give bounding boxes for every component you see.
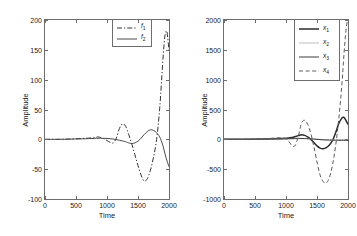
x-tick-label: 1500 [309, 202, 325, 209]
y-tick-mark [224, 139, 227, 140]
x-tick-label: 0 [43, 202, 47, 209]
x-tick-mark [348, 20, 349, 23]
x-tick-label: 0 [222, 202, 226, 209]
y-tick-mark [345, 169, 348, 170]
y-tick-mark [45, 50, 48, 51]
legend-label-x4: x4 [323, 67, 329, 75]
x-tick-mark [169, 196, 170, 199]
y-tick-mark [166, 80, 169, 81]
x-tick-mark [286, 196, 287, 199]
legend-swatch-x2 [298, 39, 320, 47]
x-tick-mark [169, 20, 170, 23]
chart-panel-right: x1x2x3x4 Time Amplitude -1000-5000500100… [179, 0, 357, 236]
y-tick-mark [224, 199, 227, 200]
y-tick-mark [224, 80, 227, 81]
y-tick-label: 150 [30, 46, 42, 53]
x-axis-label-left: Time [99, 211, 115, 220]
series-line-x1 [224, 117, 348, 149]
y-tick-label: 0 [217, 136, 221, 143]
y-tick-label: 200 [30, 17, 42, 24]
y-tick-label: -50 [32, 166, 42, 173]
x-tick-mark [138, 196, 139, 199]
legend-entry-f1[interactable]: f1 [116, 22, 148, 33]
x-tick-mark [107, 20, 108, 23]
y-tick-label: -100 [28, 196, 42, 203]
y-tick-mark [345, 110, 348, 111]
legend-swatch-f2 [116, 35, 138, 43]
x-tick-mark [224, 20, 225, 23]
y-axis-label-left: Amplitude [21, 93, 30, 126]
legend-entry-x2[interactable]: x2 [298, 36, 336, 50]
legend-right[interactable]: x1x2x3x4 [294, 19, 340, 81]
y-tick-mark [166, 169, 169, 170]
y-tick-mark [45, 139, 48, 140]
x-tick-mark [76, 20, 77, 23]
y-tick-mark [345, 50, 348, 51]
x-tick-mark [107, 196, 108, 199]
x-tick-mark [45, 196, 46, 199]
legend-swatch-f1 [116, 24, 138, 32]
y-tick-mark [166, 110, 169, 111]
x-tick-mark [224, 196, 225, 199]
legend-left[interactable]: f1f2 [112, 19, 152, 47]
x-tick-label: 1000 [99, 202, 115, 209]
x-axis-label-right: Time [278, 211, 294, 220]
y-tick-mark [166, 139, 169, 140]
y-tick-mark [345, 139, 348, 140]
y-tick-mark [45, 199, 48, 200]
plot-area-left: f1f2 Time Amplitude -100-500501001502000… [44, 19, 170, 200]
x-tick-mark [286, 20, 287, 23]
y-tick-label: -500 [207, 166, 221, 173]
legend-entry-x3[interactable]: x3 [298, 50, 336, 64]
y-tick-mark [345, 80, 348, 81]
x-tick-mark [76, 196, 77, 199]
legend-entry-f2[interactable]: f2 [116, 33, 148, 44]
legend-label-f2: f2 [141, 34, 146, 42]
x-tick-label: 1500 [130, 202, 146, 209]
y-tick-label: 100 [30, 76, 42, 83]
y-tick-label: 1500 [205, 46, 221, 53]
y-tick-label: -1000 [203, 196, 221, 203]
x-tick-mark [317, 20, 318, 23]
figure-canvas: f1f2 Time Amplitude -100-500501001502000… [0, 0, 357, 236]
series-line-f1 [45, 31, 169, 182]
y-axis-label-right: Amplitude [200, 93, 209, 126]
x-tick-mark [255, 20, 256, 23]
x-tick-label: 2000 [161, 202, 177, 209]
x-tick-label: 500 [249, 202, 261, 209]
x-tick-mark [348, 196, 349, 199]
y-tick-mark [224, 110, 227, 111]
series-line-f2 [45, 130, 169, 167]
y-tick-mark [224, 169, 227, 170]
legend-swatch-x3 [298, 53, 320, 61]
legend-entry-x1[interactable]: x1 [298, 22, 336, 36]
legend-label-x2: x2 [323, 39, 329, 47]
y-tick-mark [224, 50, 227, 51]
y-tick-label: 500 [209, 106, 221, 113]
x-tick-label: 2000 [340, 202, 356, 209]
y-tick-mark [345, 199, 348, 200]
y-tick-mark [45, 80, 48, 81]
plot-area-right: x1x2x3x4 Time Amplitude -1000-5000500100… [223, 19, 349, 200]
chart-panel-left: f1f2 Time Amplitude -100-500501001502000… [0, 0, 178, 236]
y-tick-mark [166, 199, 169, 200]
x-tick-label: 500 [70, 202, 82, 209]
legend-swatch-x1 [298, 25, 320, 33]
y-tick-label: 1000 [205, 76, 221, 83]
x-tick-mark [317, 196, 318, 199]
x-tick-mark [138, 20, 139, 23]
y-tick-mark [45, 110, 48, 111]
legend-label-x3: x3 [323, 53, 329, 61]
x-tick-mark [45, 20, 46, 23]
x-tick-mark [255, 196, 256, 199]
y-tick-label: 50 [34, 106, 42, 113]
y-tick-label: 2000 [205, 17, 221, 24]
legend-label-x1: x1 [323, 25, 329, 33]
y-tick-mark [45, 169, 48, 170]
y-tick-mark [166, 50, 169, 51]
legend-swatch-x4 [298, 67, 320, 75]
legend-label-f1: f1 [141, 23, 146, 31]
x-tick-label: 1000 [278, 202, 294, 209]
y-tick-label: 0 [38, 136, 42, 143]
legend-entry-x4[interactable]: x4 [298, 64, 336, 78]
